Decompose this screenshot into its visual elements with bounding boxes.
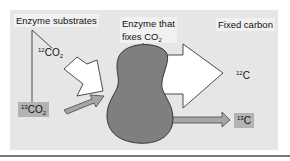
- label-13co2: 13CO2: [18, 102, 49, 117]
- arrow-12co2-input: [64, 57, 103, 96]
- enzyme-blob: [107, 45, 173, 144]
- label-12c: 12C: [236, 70, 250, 81]
- leader-line-12co2: [32, 30, 52, 48]
- label-enzyme-title: Enzyme that fixes CO2: [120, 17, 177, 43]
- label-enzyme-substrates: Enzyme substrates: [14, 14, 99, 27]
- arrow-13co2-input: [64, 95, 104, 114]
- arrow-12c-output: [160, 44, 223, 108]
- label-enzyme-title-line1: Enzyme that: [120, 17, 177, 30]
- bottom-rule: [0, 155, 290, 157]
- label-12co2: 12CO2: [38, 47, 63, 58]
- label-13c: 13C: [234, 113, 254, 128]
- label-fixed-carbon: Fixed carbon: [216, 18, 275, 31]
- label-enzyme-title-line2: fixes CO2: [120, 30, 177, 43]
